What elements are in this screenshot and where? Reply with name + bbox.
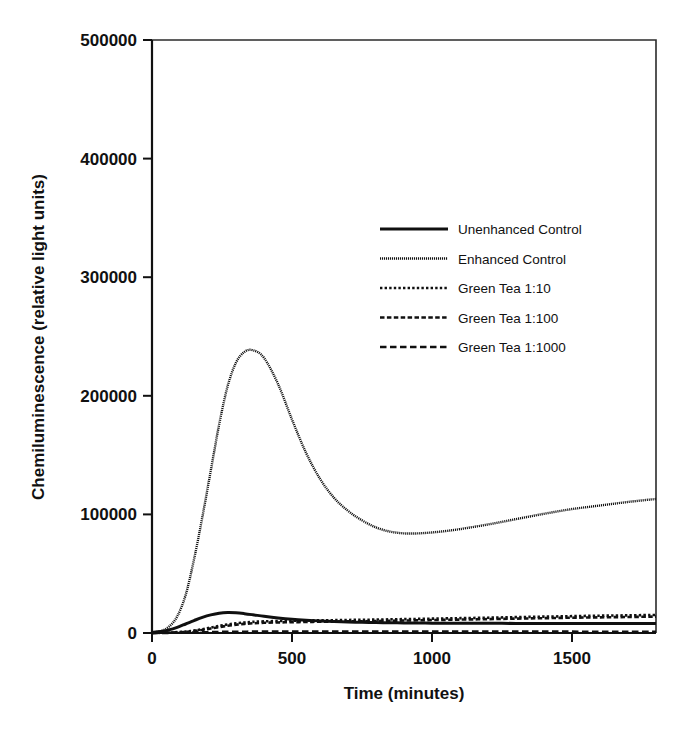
chart-legend: Unenhanced ControlEnhanced ControlGreen … [380, 222, 582, 355]
y-tick-label: 0 [128, 624, 137, 643]
x-axis-title: Time (minutes) [344, 684, 465, 703]
data-series-group [152, 350, 656, 633]
plot-frame [152, 40, 656, 633]
y-axis-title: Chemiluminescence (relative light units) [29, 174, 48, 500]
y-tick-label: 100000 [80, 505, 137, 524]
chart-figure: 0 100000 200000 300000 400000 500000 0 5… [0, 0, 685, 731]
legend-label-enhanced-control: Enhanced Control [458, 252, 566, 267]
y-tick-label: 500000 [80, 31, 137, 50]
x-tick-label: 1500 [553, 649, 591, 668]
x-tick-label: 500 [278, 649, 306, 668]
y-tick-label: 400000 [80, 150, 137, 169]
chart-canvas: 0 100000 200000 300000 400000 500000 0 5… [0, 0, 685, 731]
x-tick-label: 1000 [413, 649, 451, 668]
x-axis-tick-labels: 0 500 1000 1500 [147, 649, 591, 668]
legend-label-green-tea-1-1000: Green Tea 1:1000 [458, 340, 566, 355]
y-tick-label: 300000 [80, 268, 137, 287]
y-tick-label: 200000 [80, 387, 137, 406]
y-axis-tick-labels: 0 100000 200000 300000 400000 500000 [80, 31, 137, 643]
x-tick-label: 0 [147, 649, 156, 668]
legend-label-unenhanced-control: Unenhanced Control [458, 222, 582, 237]
x-axis-ticks [152, 633, 572, 642]
series-line-enhanced-control [152, 350, 656, 633]
legend-label-green-tea-1-100: Green Tea 1:100 [458, 311, 558, 326]
y-axis-ticks [143, 40, 152, 633]
legend-label-green-tea-1-10: Green Tea 1:10 [458, 281, 551, 296]
